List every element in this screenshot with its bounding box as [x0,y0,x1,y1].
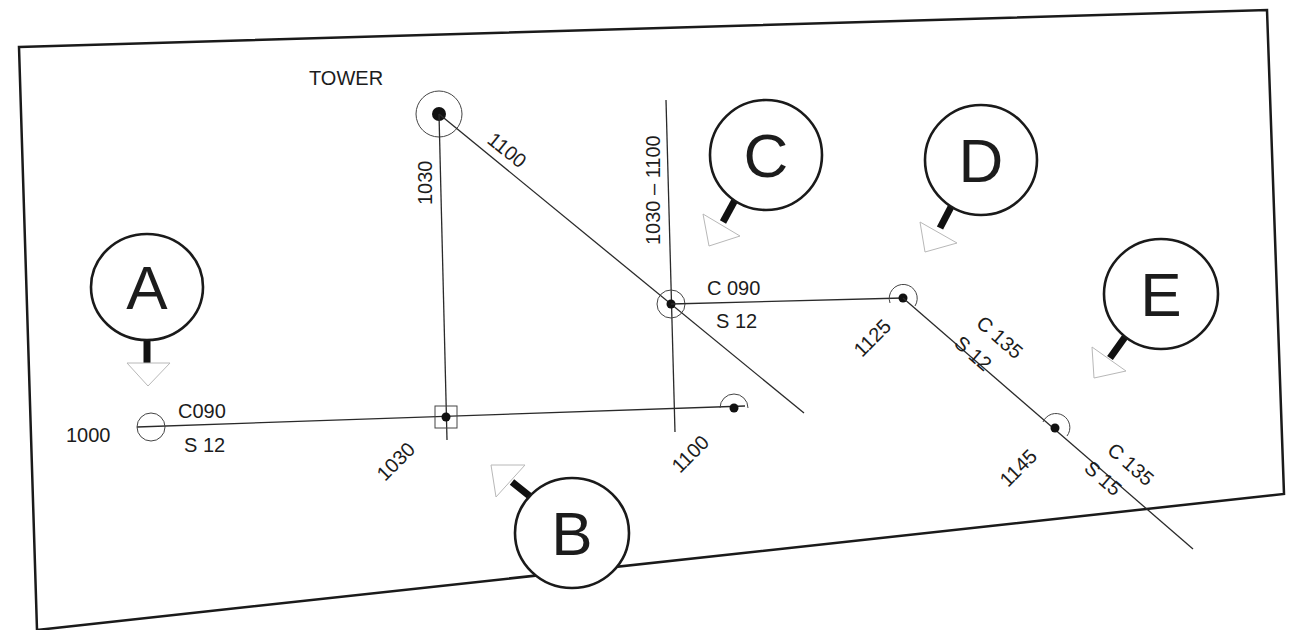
callout-a[interactable]: A [91,234,203,386]
time-label-1145: 1145 [995,445,1041,491]
pointer-triangle-icon [1092,347,1126,378]
tower-label: TOWER [309,67,383,89]
time-label-1125: 1125 [849,315,895,361]
callout-d[interactable]: D [920,105,1037,252]
navigation-diagram: TOWER 1030 1100 1030 – 1100 1000 C090 S … [0,0,1297,630]
callout-letter-d: D [959,126,1004,195]
time-label-1030: 1030 [372,438,419,485]
fix-1125-icon [889,284,917,306]
callout-letter-c: C [744,121,789,190]
bearing-line-1030 [439,114,447,440]
time-label-1000: 1000 [66,424,111,446]
leg1-course-label: C090 [178,400,226,422]
callout-letter-b: B [551,499,592,568]
leg2-speed-label: S 12 [716,310,757,332]
bearing-label-1030: 1030 [414,161,436,206]
bearing-label-range: 1030 – 1100 [642,135,664,245]
callout-e[interactable]: E [1092,239,1218,378]
callout-letter-a: A [126,253,168,322]
leg1-speed-label: S 12 [184,434,225,456]
track-leg-2 [671,298,903,304]
callout-letter-e: E [1140,260,1181,329]
pointer-triangle-icon [127,363,170,386]
callout-c[interactable]: C [703,100,822,246]
bearing-line-range [666,100,675,432]
fix-1100-icon [720,394,748,413]
track-leg-1 [137,406,745,427]
fix-1145-icon [1043,414,1070,436]
leg2-course-label: C 090 [707,277,760,299]
time-label-1100: 1100 [667,431,713,477]
callout-b[interactable]: B [491,465,629,588]
diagram-border [19,10,1284,630]
bearing-label-1100: 1100 [483,128,530,172]
